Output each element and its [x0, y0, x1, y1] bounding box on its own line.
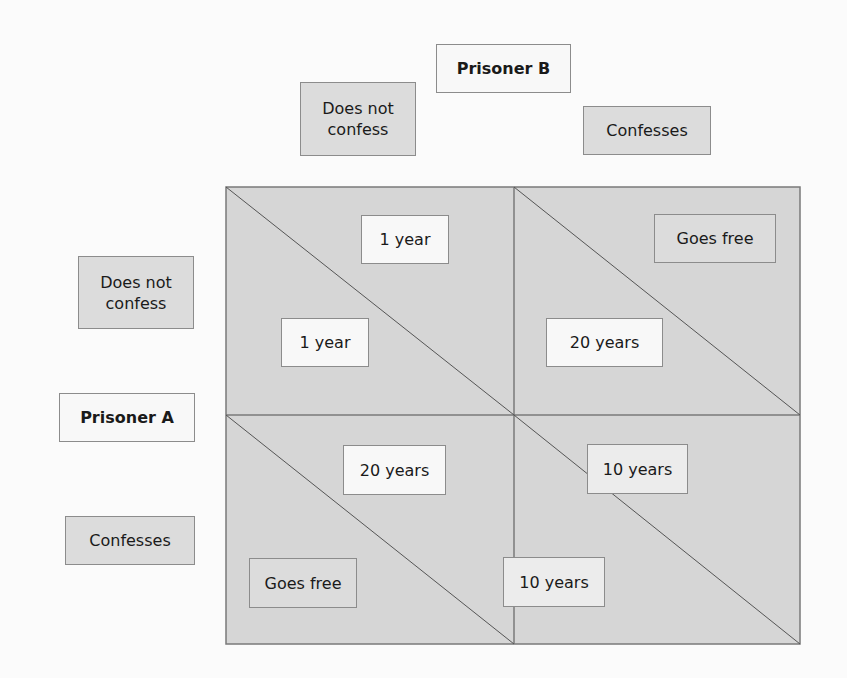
prisoner-a-strategy-confesses: Confesses — [65, 516, 195, 565]
cell-1-1-payoff-a: 10 years — [503, 557, 605, 607]
strategy-line-1: Does not — [322, 98, 394, 119]
cell-0-1-payoff-b: Goes free — [654, 214, 776, 263]
prisoner-a-strategy-does-not-confess: Does not confess — [78, 256, 194, 329]
cell-1-1-payoff-b: 10 years — [587, 444, 688, 494]
cell-0-0-payoff-a: 1 year — [281, 318, 369, 367]
payoff-matrix-grid — [0, 0, 847, 678]
strategy-line-2: confess — [328, 119, 389, 140]
strategy-line-2: confess — [106, 293, 167, 314]
prisoner-b-strategy-confesses: Confesses — [583, 106, 711, 155]
cell-0-1-payoff-a: 20 years — [546, 318, 663, 367]
cell-1-0-payoff-b: 20 years — [343, 445, 446, 495]
prisoner-a-label: Prisoner A — [59, 393, 195, 442]
cell-1-0-payoff-a: Goes free — [249, 558, 357, 608]
strategy-line-1: Does not — [100, 272, 172, 293]
prisoner-b-label: Prisoner B — [436, 44, 571, 93]
prisoner-b-strategy-does-not-confess: Does not confess — [300, 82, 416, 156]
cell-0-0-payoff-b: 1 year — [361, 215, 449, 264]
